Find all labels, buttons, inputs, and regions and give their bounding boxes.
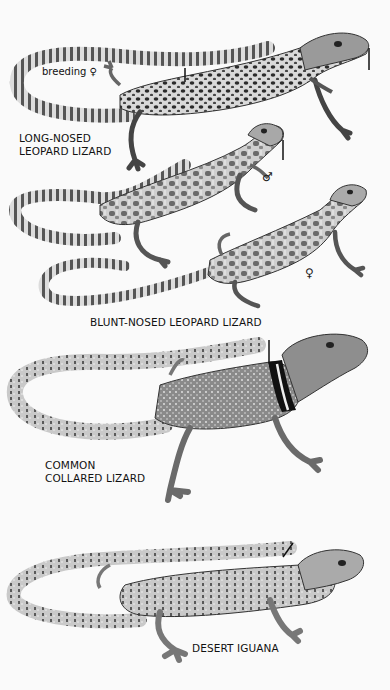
- breeding-female-note: breeding ♀: [42, 66, 97, 77]
- female-symbol: ♀: [305, 266, 314, 280]
- lizard-illustrations: [0, 0, 390, 690]
- desert-iguana-label: DESERT IGUANA: [192, 642, 279, 655]
- long-nosed-leopard-lizard-label: LONG-NOSED LEOPARD LIZARD: [19, 132, 111, 158]
- desert-iguana-figure: [14, 543, 364, 660]
- blunt-nosed-leopard-lizard-label: BLUNT-NOSED LEOPARD LIZARD: [90, 316, 262, 329]
- male-symbol: ♂: [262, 170, 273, 184]
- common-collared-lizard-label: COMMON COLLARED LIZARD: [45, 459, 145, 485]
- field-guide-plate: breeding ♀ LONG-NOSED LEOPARD LIZARD ♂ ♀…: [0, 0, 390, 690]
